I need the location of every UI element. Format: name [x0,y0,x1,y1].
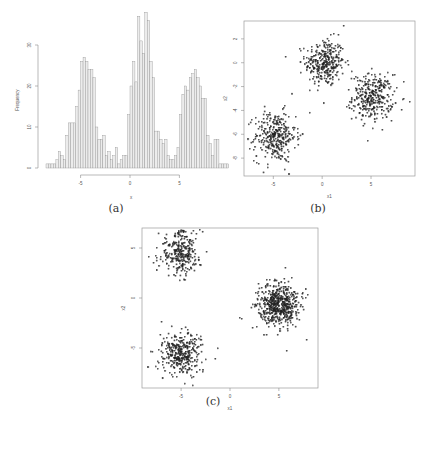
data-point [202,362,203,363]
data-point [152,351,153,352]
data-point [190,256,191,257]
data-point [339,52,340,53]
data-point [328,77,329,78]
data-point [374,113,375,114]
data-point [266,138,267,139]
x-tick-label: 0 [321,182,324,187]
histogram-bar [115,148,117,169]
histogram-bar [135,82,137,168]
data-point [328,62,329,63]
data-point [355,77,356,78]
data-point [364,101,365,102]
data-point [156,270,157,271]
data-point [177,353,178,354]
data-point [363,125,364,126]
data-point [183,339,184,340]
data-point [335,66,336,67]
data-point [362,87,363,88]
data-point [174,274,175,275]
data-point [200,265,201,266]
histogram-bar [184,86,186,168]
data-point [317,73,318,74]
data-point [262,298,263,299]
data-point [195,238,196,239]
data-point [295,300,296,301]
data-point [290,321,291,322]
data-point [287,127,288,128]
data-point [266,115,267,116]
data-point [181,238,182,239]
scatter-points [248,25,411,175]
data-point [317,50,318,51]
data-point [260,306,261,307]
data-point [174,361,175,362]
data-point [162,361,163,362]
data-point [266,292,267,293]
data-point [284,125,285,126]
data-point [187,349,188,350]
histogram-bar [170,160,172,168]
data-point [285,136,286,137]
data-point [333,57,334,58]
data-point [279,292,280,293]
data-point [181,240,182,241]
data-point [375,76,376,77]
data-point [303,48,304,49]
data-point [171,326,172,327]
data-point [279,150,280,151]
data-point [289,116,290,117]
data-point [267,152,268,153]
data-point [171,366,172,367]
data-point [271,157,272,158]
data-point [180,230,181,231]
data-point [369,90,370,91]
data-point [297,297,298,298]
data-point [284,113,285,114]
data-point [261,141,262,142]
data-point [281,322,282,323]
data-point [341,58,342,59]
data-point [166,362,167,363]
data-point [373,90,374,91]
data-point [322,55,323,56]
data-point [188,253,189,254]
data-point [263,114,264,115]
data-point [173,267,174,268]
data-point [384,83,385,84]
data-point [289,297,290,298]
histogram-bar [90,70,92,168]
data-point [274,319,275,320]
data-point [262,127,263,128]
data-point [367,112,368,113]
data-point [287,322,288,323]
data-point [269,322,270,323]
data-point [179,280,180,281]
data-point [391,121,392,122]
data-point [283,146,284,147]
data-point [388,96,389,97]
data-point [321,79,322,80]
data-point [311,60,312,61]
data-point [291,296,292,297]
data-point [281,119,282,120]
data-point [168,358,169,359]
data-point [279,320,280,321]
data-point [370,106,371,107]
data-point [390,86,391,87]
data-point [261,129,262,130]
data-point [161,357,162,358]
y-tick-label: -4 [233,108,238,112]
data-point [176,260,177,261]
data-point [328,47,329,48]
data-point [265,156,266,157]
data-point [377,100,378,101]
data-point [292,93,293,94]
data-point [277,317,278,318]
data-point [187,240,188,241]
data-point [357,80,358,81]
data-point [268,284,269,285]
data-point [362,81,363,82]
data-point [183,258,184,259]
data-point [157,257,158,258]
data-point [316,64,317,65]
